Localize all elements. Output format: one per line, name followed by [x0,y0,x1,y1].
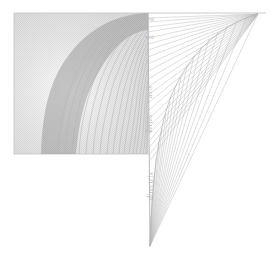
axis-label: axis [146,86,154,98]
point-a-label: a [151,16,154,22]
directrix-label: directrix [146,172,155,200]
point-b-label: b [151,34,154,40]
vertex-label: vertex [146,114,154,133]
figure-canvas: axis vertex directrix a b [0,0,271,258]
figure-svg [0,0,271,258]
lower-tangent-fan [150,14,258,246]
